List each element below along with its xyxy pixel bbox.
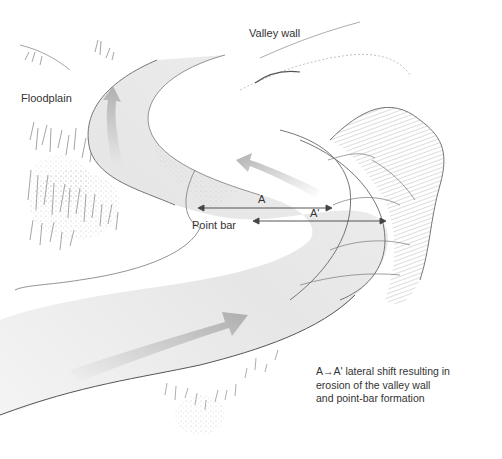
measurement-a-label: A <box>258 193 265 206</box>
valley-wall-label: Valley wall <box>249 27 300 40</box>
caption-line-1: A→A' lateral shift resulting in <box>316 365 450 379</box>
measurement-a-prime-label: A' <box>310 207 319 220</box>
floodplain-label: Floodplain <box>21 92 72 105</box>
caption-line-3: and point-bar formation <box>316 392 450 406</box>
lower-bank-stipple <box>175 395 225 435</box>
diagram-caption: A→A' lateral shift resulting in erosion … <box>316 365 450 406</box>
caption-line-2: erosion of the valley wall <box>316 379 450 393</box>
diagram-canvas: Valley wall Floodplain Point bar A A' A→… <box>0 0 502 459</box>
point-bar-label: Point bar <box>192 219 236 232</box>
